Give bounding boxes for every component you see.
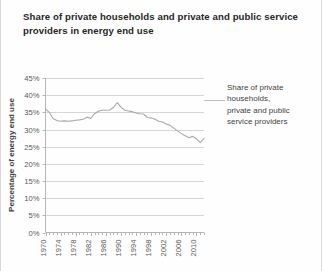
- x-tick-label: 1986: [99, 240, 108, 257]
- y-tick-label: 20%: [24, 160, 39, 169]
- x-tick-label: 1970: [39, 240, 48, 257]
- line-chart-plot: 0%5%10%15%20%25%30%35%40%45% 19701974197…: [1, 0, 322, 271]
- y-tick-label: 0%: [29, 229, 40, 238]
- y-tick-label: 40%: [24, 91, 39, 100]
- gridlines: [46, 79, 205, 216]
- annotation-line: households,: [227, 93, 319, 104]
- y-tick-label: 35%: [24, 108, 39, 117]
- x-tick-label: 2006: [174, 240, 183, 257]
- y-tick-label: 30%: [24, 126, 39, 135]
- y-tick-label: 10%: [24, 194, 39, 203]
- x-axis-ticks: 1970197419781982198619901994199820022006…: [39, 233, 205, 257]
- x-tick-label: 1982: [84, 240, 93, 257]
- y-tick-label: 5%: [29, 211, 40, 220]
- annotation-line: service providers: [227, 116, 319, 127]
- x-tick-label: 2010: [189, 240, 198, 257]
- annotation-line: private and public: [227, 105, 319, 116]
- annotation-line: Share of private: [227, 82, 319, 93]
- y-tick-label: 15%: [24, 177, 39, 186]
- y-tick-label: 45%: [24, 74, 39, 83]
- chart-figure: Share of private households and private …: [0, 0, 322, 271]
- series-annotation: Share of privatehouseholds,private and p…: [227, 82, 319, 128]
- x-tick-label: 1998: [144, 240, 153, 257]
- y-tick-label: 25%: [24, 143, 39, 152]
- x-tick-label: 1994: [129, 240, 138, 257]
- x-tick-label: 1978: [69, 240, 78, 257]
- x-tick-label: 1974: [54, 240, 63, 257]
- x-tick-label: 1990: [114, 240, 123, 257]
- y-axis-title: Percentage of energy end use: [7, 98, 16, 212]
- data-series-line: [46, 103, 205, 143]
- x-tick-label: 2002: [159, 240, 168, 257]
- y-axis-ticks: 0%5%10%15%20%25%30%35%40%45%: [24, 74, 45, 238]
